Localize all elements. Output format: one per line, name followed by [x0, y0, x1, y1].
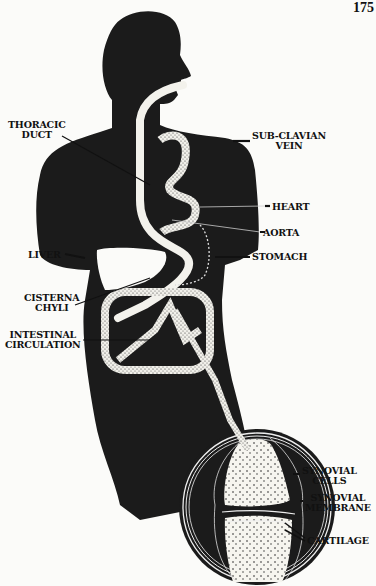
label-line: CELLS: [302, 476, 357, 486]
label-cisterna-chyli: CISTERNA CHYLI: [24, 293, 80, 313]
label-thoracic-duct: THORACIC DUCT: [8, 120, 66, 140]
label-sub-clavian-vein: SUB-CLAVIAN VEIN: [252, 131, 326, 151]
label-line: MEMBRANE: [305, 503, 371, 513]
label-line: DUCT: [8, 130, 66, 140]
label-intestinal-circulation: INTESTINAL CIRCULATION: [5, 330, 81, 350]
label-heart: HEART: [272, 202, 309, 212]
label-stomach: STOMACH: [252, 252, 307, 262]
label-line: CIRCULATION: [5, 340, 81, 350]
label-line: CHYLI: [24, 303, 80, 313]
label-aorta: AORTA: [263, 228, 299, 238]
label-liver: LIVER: [28, 250, 61, 260]
label-synovial-cells: SYNOVIAL CELLS: [302, 466, 357, 486]
label-synovial-membrane: SYNOVIAL MEMBRANE: [305, 493, 371, 513]
label-line: VEIN: [252, 141, 326, 151]
label-cartilage: CARTILAGE: [307, 536, 369, 546]
